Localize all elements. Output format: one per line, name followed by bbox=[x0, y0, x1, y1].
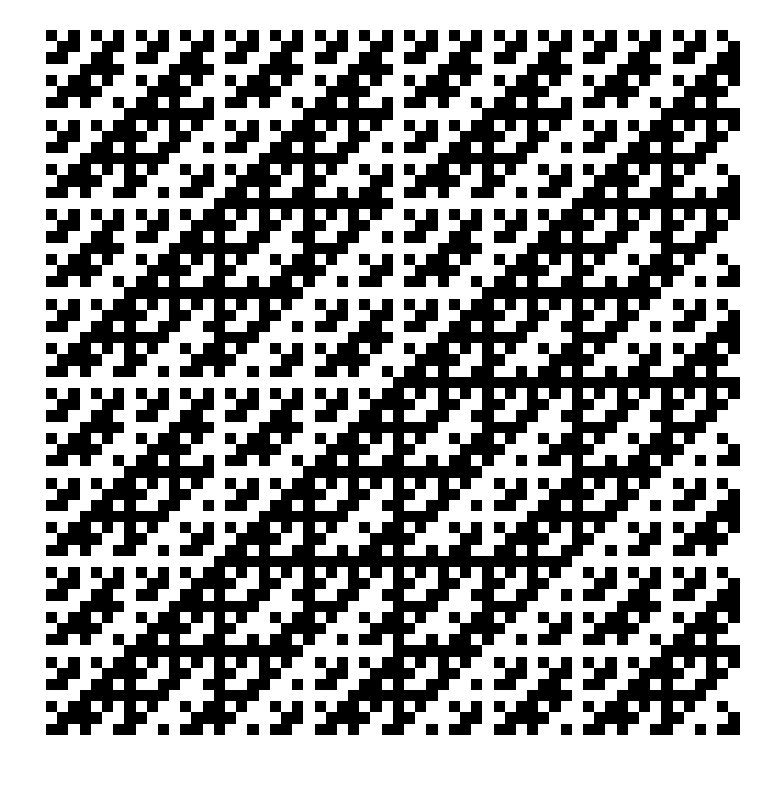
pattern-cell bbox=[214, 556, 225, 567]
pattern-cell bbox=[292, 511, 303, 522]
pattern-cell bbox=[583, 623, 594, 634]
pattern-cell bbox=[359, 209, 370, 220]
pattern-cell bbox=[315, 287, 326, 298]
pattern-cell bbox=[404, 455, 415, 466]
pattern-cell bbox=[583, 265, 594, 276]
pattern-cell bbox=[315, 343, 326, 354]
pattern-cell bbox=[180, 500, 191, 511]
pattern-cell bbox=[191, 668, 202, 679]
pattern-cell bbox=[113, 545, 124, 556]
pattern-cell bbox=[471, 679, 482, 690]
pattern-cell bbox=[617, 97, 628, 108]
pattern-cell bbox=[203, 97, 214, 108]
pattern-cell bbox=[471, 321, 482, 332]
pattern-cell bbox=[225, 601, 236, 612]
pattern-cell bbox=[91, 511, 102, 522]
pattern-cell bbox=[91, 332, 102, 343]
pattern-cell bbox=[270, 75, 281, 86]
pattern-cell bbox=[415, 64, 426, 75]
pattern-cell bbox=[572, 533, 583, 544]
pattern-cell bbox=[225, 712, 236, 723]
pattern-cell bbox=[527, 108, 538, 119]
pattern-cell bbox=[46, 97, 57, 108]
pattern-cell bbox=[68, 142, 79, 153]
pattern-cell bbox=[538, 612, 549, 623]
pattern-cell bbox=[415, 142, 426, 153]
pattern-cell bbox=[80, 209, 91, 220]
pattern-cell bbox=[348, 153, 359, 164]
pattern-cell bbox=[315, 511, 326, 522]
pattern-cell bbox=[236, 187, 247, 198]
pattern-cell bbox=[158, 265, 169, 276]
pattern-cell bbox=[203, 254, 214, 265]
pattern-cell bbox=[706, 377, 717, 388]
pattern-cell bbox=[315, 589, 326, 600]
pattern-cell bbox=[303, 634, 314, 645]
pattern-cell bbox=[628, 567, 639, 578]
pattern-cell bbox=[393, 500, 404, 511]
pattern-cell bbox=[527, 634, 538, 645]
pattern-cell bbox=[617, 30, 628, 41]
pattern-cell bbox=[326, 489, 337, 500]
pattern-cell bbox=[158, 164, 169, 175]
pattern-cell bbox=[68, 86, 79, 97]
pattern-cell bbox=[270, 377, 281, 388]
pattern-cell bbox=[247, 533, 258, 544]
pattern-cell bbox=[426, 690, 437, 701]
pattern-cell bbox=[706, 164, 717, 175]
pattern-cell bbox=[438, 645, 449, 656]
pattern-cell bbox=[583, 343, 594, 354]
pattern-cell bbox=[281, 545, 292, 556]
pattern-cell bbox=[617, 679, 628, 690]
pattern-cell bbox=[494, 433, 505, 444]
pattern-cell bbox=[180, 108, 191, 119]
pattern-cell bbox=[57, 634, 68, 645]
pattern-cell bbox=[673, 153, 684, 164]
pattern-cell bbox=[639, 64, 650, 75]
pattern-cell bbox=[706, 444, 717, 455]
pattern-cell bbox=[169, 164, 180, 175]
pattern-cell bbox=[527, 220, 538, 231]
pattern-cell bbox=[326, 724, 337, 735]
pattern-cell bbox=[281, 164, 292, 175]
pattern-cell bbox=[180, 187, 191, 198]
pattern-cell bbox=[594, 690, 605, 701]
pattern-cell bbox=[516, 724, 527, 735]
pattern-cell bbox=[91, 321, 102, 332]
pattern-cell bbox=[393, 299, 404, 310]
pattern-cell bbox=[46, 75, 57, 86]
pattern-cell bbox=[549, 64, 560, 75]
pattern-cell bbox=[460, 52, 471, 63]
pattern-cell bbox=[91, 377, 102, 388]
pattern-cell bbox=[460, 108, 471, 119]
pattern-cell bbox=[583, 108, 594, 119]
pattern-cell bbox=[628, 276, 639, 287]
pattern-cell bbox=[673, 120, 684, 131]
pattern-cell bbox=[594, 287, 605, 298]
pattern-cell bbox=[561, 265, 572, 276]
pattern-cell bbox=[594, 601, 605, 612]
pattern-cell bbox=[68, 422, 79, 433]
pattern-cell bbox=[460, 735, 471, 746]
pattern-cell bbox=[549, 131, 560, 142]
pattern-cell bbox=[516, 198, 527, 209]
pattern-cell bbox=[113, 578, 124, 589]
pattern-cell bbox=[673, 444, 684, 455]
pattern-cell bbox=[337, 601, 348, 612]
pattern-cell bbox=[549, 701, 560, 712]
pattern-cell bbox=[449, 645, 460, 656]
pattern-cell bbox=[426, 712, 437, 723]
pattern-cell bbox=[572, 444, 583, 455]
pattern-cell bbox=[292, 75, 303, 86]
pattern-cell bbox=[236, 142, 247, 153]
pattern-cell bbox=[650, 153, 661, 164]
pattern-cell bbox=[605, 366, 616, 377]
pattern-cell bbox=[68, 679, 79, 690]
pattern-cell bbox=[337, 187, 348, 198]
pattern-cell bbox=[594, 500, 605, 511]
pattern-cell bbox=[482, 108, 493, 119]
pattern-cell bbox=[337, 455, 348, 466]
pattern-cell bbox=[113, 332, 124, 343]
pattern-cell bbox=[348, 657, 359, 668]
pattern-cell bbox=[505, 388, 516, 399]
